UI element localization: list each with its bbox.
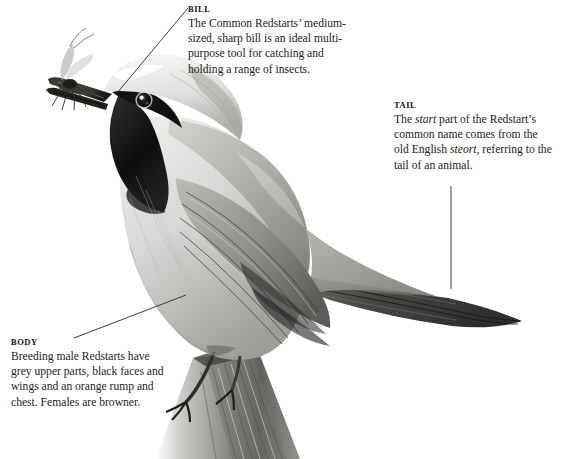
callout-bill-body: The Common Redstarts’ medium-sized, shar… (188, 16, 360, 77)
callout-tail: TAIL The start part of the Redstart’s co… (394, 100, 552, 173)
eye (135, 91, 152, 108)
insect-prey (52, 28, 96, 110)
callout-body-heading: BODY (11, 337, 171, 348)
body (120, 116, 438, 360)
callout-tail-body: The start part of the Redstart’s common … (394, 112, 552, 173)
callout-bill: BILL The Common Redstarts’ medium-sized,… (188, 4, 360, 77)
callout-bill-heading: BILL (188, 4, 360, 15)
perch (156, 349, 300, 459)
callout-body: BODY Breeding male Redstarts have grey u… (11, 337, 171, 410)
callout-body-body: Breeding male Redstarts have grey upper … (11, 349, 171, 410)
figure-canvas: BILL The Common Redstarts’ medium-sized,… (0, 0, 569, 459)
callout-tail-heading: TAIL (394, 100, 552, 111)
